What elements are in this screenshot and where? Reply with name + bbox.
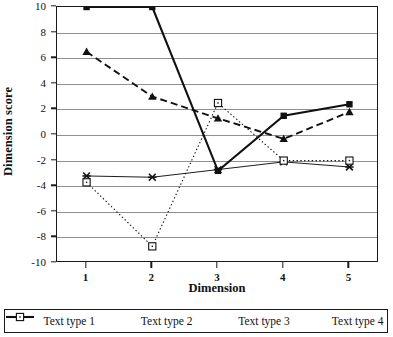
legend-key-open-square-icon <box>299 314 329 328</box>
data-point-open-square <box>149 243 156 250</box>
legend-item-3: Text type 3 <box>200 314 296 328</box>
data-point-filled-triangle <box>82 48 90 55</box>
y-tick-label: -10 <box>20 256 46 268</box>
series-3 <box>82 158 353 180</box>
y-tick-label: 10 <box>20 0 46 12</box>
y-tick-label: -2 <box>20 154 46 166</box>
plot-frame <box>56 6 378 262</box>
x-axis-title: Dimension <box>56 281 378 296</box>
x-tick-mark <box>348 262 349 268</box>
data-point-filled-square <box>281 113 287 119</box>
legend-item-4: Text type 4 <box>295 314 387 328</box>
y-tick-label: -4 <box>20 179 46 191</box>
y-tick-label: 0 <box>20 128 46 140</box>
series-4 <box>83 99 353 250</box>
chart-plot-area: Dimension score -10-8-6-4-20246810 12345… <box>0 0 393 300</box>
legend-label: Text type 4 <box>332 315 384 327</box>
data-point-open-square <box>83 179 90 186</box>
data-point-filled-triangle <box>148 92 156 99</box>
y-tick-label: -6 <box>20 205 46 217</box>
y-tick-label: -8 <box>20 230 46 242</box>
data-point-filled-square <box>83 4 89 10</box>
x-tick-mark <box>282 262 283 268</box>
legend-label: Text type 3 <box>238 315 290 327</box>
y-tick-label: 4 <box>20 77 46 89</box>
y-axis-title-text: Dimension score <box>2 86 17 175</box>
legend-label: Text type 1 <box>43 315 95 327</box>
x-tick-mark <box>216 262 217 268</box>
series-2 <box>82 48 353 142</box>
series-layer <box>57 7 379 263</box>
chart-legend: Text type 1Text type 2Text type 3Text ty… <box>4 309 388 333</box>
series-line <box>87 52 350 139</box>
data-point-open-square <box>16 313 23 320</box>
data-point-cross-x <box>148 174 156 181</box>
y-tick-label: 2 <box>20 102 46 114</box>
y-tick-label: 6 <box>20 51 46 63</box>
legend-key-filled-triangle-icon <box>108 314 138 328</box>
legend-label: Text type 2 <box>141 315 193 327</box>
data-point-filled-triangle <box>345 108 353 115</box>
data-point-open-square <box>280 157 287 164</box>
chart-figure: Dimension score -10-8-6-4-20246810 12345… <box>0 0 393 337</box>
data-point-filled-square <box>149 4 155 10</box>
series-line <box>87 103 350 246</box>
series-line <box>87 7 350 171</box>
x-tick-mark <box>85 262 86 268</box>
data-point-open-square <box>346 157 353 164</box>
legend-item-2: Text type 2 <box>101 314 200 328</box>
data-point-open-square <box>214 99 221 106</box>
data-point-filled-square <box>346 101 352 107</box>
series-1 <box>83 4 352 174</box>
x-tick-mark <box>151 262 152 268</box>
y-tick-label: 8 <box>20 26 46 38</box>
legend-key-cross-x-icon <box>205 314 235 328</box>
y-axis-title: Dimension score <box>0 0 20 262</box>
